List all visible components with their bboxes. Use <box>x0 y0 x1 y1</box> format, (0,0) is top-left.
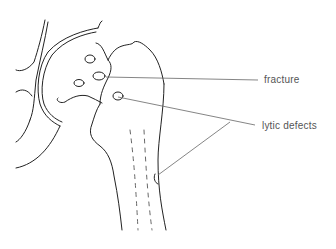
lytic-defects-label: lytic defects <box>262 120 317 131</box>
femur-diagram: fracture lytic defects <box>0 0 336 249</box>
fracture-label: fracture <box>264 74 300 85</box>
